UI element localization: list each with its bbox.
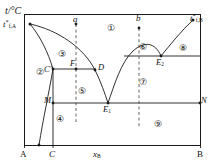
region-8: ⑧ xyxy=(177,42,189,54)
point-label-f: F xyxy=(70,59,75,68)
d-letter: D xyxy=(98,62,104,72)
x-endpoint-a-text: A xyxy=(20,149,27,159)
cprime-mark: ′ xyxy=(50,64,52,74)
region-8-label: ⑧ xyxy=(179,43,187,53)
x-axis-tick-label-c: C xyxy=(49,150,55,159)
solvus-curve-upper-left xyxy=(30,24,53,69)
point-label-n: N xyxy=(201,96,207,105)
region-6: ⑥ xyxy=(137,41,149,53)
region-9: ⑨ xyxy=(152,118,164,130)
x-axis-sub: B xyxy=(97,153,101,159)
x-axis-label-a: A xyxy=(20,150,27,159)
marker-solvus-bottom xyxy=(38,144,41,147)
point-label-e1: E1 xyxy=(103,105,111,114)
x-axis-label-b: B xyxy=(197,150,203,159)
x-tick-c-text: C xyxy=(49,149,55,159)
cooling-a-text: a xyxy=(73,14,78,24)
marker-D xyxy=(94,69,97,72)
region-3: ③ xyxy=(56,48,68,60)
region-6-label: ⑥ xyxy=(139,42,147,52)
marker-tfA xyxy=(29,23,32,26)
cooling-line-b-label: b xyxy=(136,14,141,23)
m-letter: M xyxy=(44,95,51,105)
solvus-curve-lower-left xyxy=(39,69,53,145)
tfB-sub: f,B xyxy=(196,17,203,23)
y-axis-label-text: t/°C xyxy=(5,5,21,16)
point-label-d: D xyxy=(98,63,104,72)
f-letter: F xyxy=(70,58,75,68)
tfA-sub: f,A xyxy=(9,23,16,29)
region-4: ④ xyxy=(54,113,66,125)
point-label-m: M xyxy=(44,96,51,105)
region-3-label: ③ xyxy=(58,49,66,59)
region-7-label: ⑦ xyxy=(139,77,147,87)
cooling-b-text: b xyxy=(136,13,141,23)
melting-point-a-label: t*f,A xyxy=(3,19,16,29)
marker-M xyxy=(52,102,55,105)
phase-diagram-figure: t/°C t*f,A t*f,B a b C′ F D M N E1 E2 ① … xyxy=(0,0,213,168)
point-label-e2: E2 xyxy=(156,58,164,67)
region-2: ② xyxy=(34,66,46,78)
region-1-label: ① xyxy=(107,23,115,33)
region-1: ① xyxy=(105,22,117,34)
region-7: ⑦ xyxy=(137,76,149,88)
n-letter: N xyxy=(201,95,207,105)
cooling-line-a-label: a xyxy=(73,15,78,24)
y-axis-label: t/°C xyxy=(5,6,21,16)
region-5-label: ⑤ xyxy=(78,86,86,96)
marker-cprime xyxy=(52,68,55,71)
region-2-label: ② xyxy=(36,67,44,77)
melting-point-b-label: t*f,B xyxy=(190,13,203,23)
region-4-label: ④ xyxy=(56,114,64,124)
x-axis-label: xB xyxy=(93,150,101,160)
liquidus-curve-right-dome xyxy=(108,44,161,103)
marker-b-end xyxy=(138,27,141,30)
e1-sub: 1 xyxy=(108,108,111,114)
e2-sub: 2 xyxy=(161,61,164,67)
marker-F xyxy=(75,68,78,71)
liquidus-curve-left xyxy=(30,24,108,103)
region-9-label: ⑨ xyxy=(154,119,162,129)
region-5: ⑤ xyxy=(76,85,88,97)
x-endpoint-b-text: B xyxy=(197,149,203,159)
